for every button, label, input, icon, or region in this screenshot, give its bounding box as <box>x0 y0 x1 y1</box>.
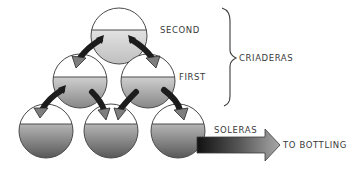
output-label-to-bottling: TO BOTTLING <box>283 140 347 150</box>
barrel-solera-middle <box>81 104 141 162</box>
barrel-solera-left <box>16 104 76 162</box>
tier-label-first: FIRST <box>179 72 206 82</box>
tier-label-second: SECOND <box>160 25 200 35</box>
criaderas-bracket <box>222 8 236 106</box>
solera-system-diagram: SECOND FIRST CRIADERAS SOLERAS TO BOTTLI… <box>0 0 361 171</box>
tier-label-soleras: SOLERAS <box>214 125 257 135</box>
group-label-criaderas: CRIADERAS <box>239 53 293 63</box>
